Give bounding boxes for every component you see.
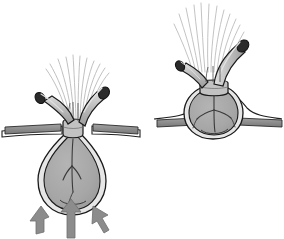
fascia-plate-right-r xyxy=(238,118,282,127)
figure-canvas: Anatomical illustration of hernia sac re… xyxy=(0,0,284,239)
anatomy-illustration: Anatomical illustration of hernia sac re… xyxy=(0,0,284,239)
